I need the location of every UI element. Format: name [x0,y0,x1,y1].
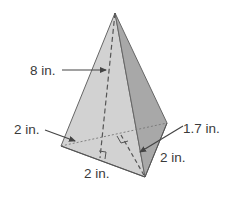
pyramid-diagram: 8 in. 2 in. 1.7 in. 2 in. 2 in. [0,0,236,197]
base-bottom-label: 2 in. [84,166,110,181]
base-right-label: 2 in. [160,150,186,165]
base-altitude-label: 1.7 in. [183,121,220,136]
base-left-label: 2 in. [14,122,40,137]
height-label: 8 in. [30,63,56,78]
